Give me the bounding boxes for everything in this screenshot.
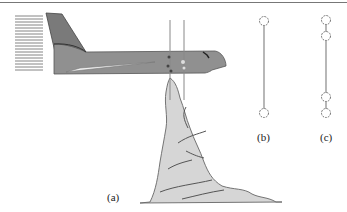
aircraft-icon — [46, 13, 226, 74]
panel-b-label: (b) — [257, 131, 270, 143]
panel-c-particles-icon — [322, 16, 331, 118]
panel-a-label: (a) — [107, 191, 119, 203]
panel-c-label: (c) — [320, 131, 332, 143]
diagram-figure — [0, 0, 347, 212]
airflow-lines-icon — [15, 16, 43, 70]
panel-b-particles-icon — [260, 17, 269, 118]
